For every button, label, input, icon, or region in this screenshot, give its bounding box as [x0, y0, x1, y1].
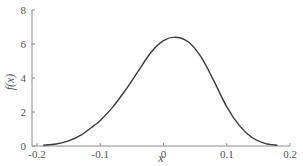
y-tick-label: 4: [21, 72, 27, 84]
y-tick-label: 8: [21, 4, 27, 16]
x-tick-label: 0.1: [220, 148, 234, 160]
x-tick-label: -0.2: [28, 148, 45, 160]
y-axis: 02468: [21, 4, 36, 152]
y-tick-label: 0: [21, 140, 27, 152]
chart: 02468 -0.2-0.100.10.2 x f(x): [0, 0, 303, 166]
x-tick-label: 0.2: [283, 148, 297, 160]
y-axis-label: f(x): [3, 74, 17, 91]
y-tick-label: 2: [21, 106, 27, 118]
y-tick-label: 6: [21, 38, 27, 50]
x-tick-label: -0.1: [92, 148, 109, 160]
x-axis-label: x: [157, 151, 164, 165]
pdf-curve: [43, 37, 277, 145]
